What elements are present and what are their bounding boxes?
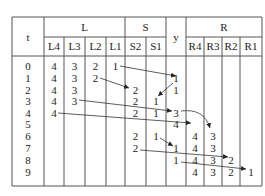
arrow-l1-to-y (120, 66, 176, 76)
cell-r4-row-9: 4 (192, 166, 198, 178)
cell-r4-row-8: 4 (192, 154, 198, 166)
cell-s2-row-3: 2 (133, 95, 139, 107)
cell-s2-row-7: 2 (133, 142, 139, 154)
flow-table-diagram: t y L S R L4 L3 L2 L1 S2 S1 R4 R3 R2 R1 … (0, 0, 265, 196)
header-group-r: R (220, 21, 228, 33)
header-r2: R2 (225, 40, 238, 52)
cell-y-row-1: 1 (173, 72, 179, 84)
cell-l2-row-0: 2 (93, 60, 99, 72)
cell-l3-row-0: 3 (72, 60, 78, 72)
cell-t-row-3: 3 (25, 95, 31, 107)
header-group-s: S (142, 21, 148, 33)
cell-l4-row-4: 4 (51, 107, 57, 119)
cell-l4-row-3: 4 (51, 95, 57, 107)
header-s2: S2 (130, 40, 142, 52)
cell-t-row-6: 6 (25, 130, 31, 142)
cell-r4-row-7: 4 (192, 142, 198, 154)
cell-t-row-9: 9 (25, 166, 31, 178)
cell-l1-row-0: 1 (113, 60, 119, 72)
cell-y-row-2: 1 (173, 84, 179, 96)
cell-t-row-8: 8 (25, 154, 31, 166)
cell-r1-row-9: 1 (248, 166, 254, 178)
cell-y-row-8: 1 (173, 154, 179, 166)
header-r3: R3 (207, 40, 220, 52)
cell-y-row-7: 1 (173, 142, 179, 154)
cell-r3-row-9: 3 (210, 166, 216, 178)
diagram-canvas: t y L S R L4 L3 L2 L1 S2 S1 R4 R3 R2 R1 … (0, 0, 265, 196)
cell-s2-row-4: 2 (133, 107, 139, 119)
header-l1: L1 (109, 40, 121, 52)
cell-l3-row-3: 3 (72, 95, 78, 107)
cell-l2-row-1: 2 (93, 72, 99, 84)
cell-s1-row-3: 1 (153, 95, 159, 107)
header-l4: L4 (48, 40, 61, 52)
cell-t-row-0: 0 (25, 60, 31, 72)
cell-t-row-7: 7 (25, 142, 31, 154)
arrow-y-to-r3 (181, 111, 210, 128)
cell-r4-row-6: 4 (192, 130, 198, 142)
header-l2: L2 (89, 40, 101, 52)
cell-l3-row-1: 3 (72, 72, 78, 84)
header-r4: R4 (189, 40, 202, 52)
cell-r3-row-7: 3 (210, 142, 216, 154)
header-y: y (173, 31, 179, 43)
cell-y-row-5: 4 (173, 118, 179, 130)
header-r1: R1 (245, 40, 258, 52)
header-s1: S1 (150, 40, 162, 52)
header-t: t (26, 31, 29, 43)
cell-r3-row-6: 3 (210, 130, 216, 142)
header-group-l: L (81, 21, 88, 33)
cell-l4-row-0: 4 (51, 60, 57, 72)
header-l3: L3 (68, 40, 81, 52)
cell-s2-row-6: 2 (133, 130, 139, 142)
cell-s1-row-6: 1 (153, 130, 159, 142)
cell-r2-row-8: 2 (228, 154, 234, 166)
cell-t-row-1: 1 (25, 72, 31, 84)
cell-l4-row-1: 4 (51, 72, 57, 84)
cell-t-row-5: 5 (25, 118, 31, 130)
transfer-arrows (58, 66, 246, 169)
